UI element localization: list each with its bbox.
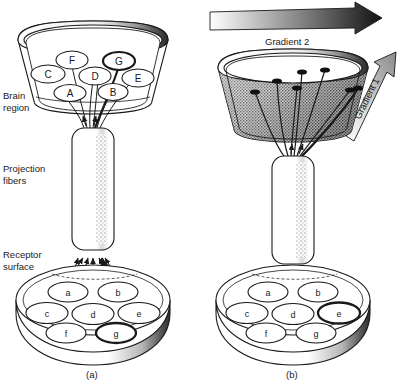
receptor-node-b-a-label: a bbox=[265, 288, 270, 298]
brain-region-label-line1: Brain bbox=[3, 90, 25, 101]
receptor-node-a-label: a bbox=[65, 288, 70, 298]
brain-node-B-label: B bbox=[110, 87, 117, 98]
receptor-surface-label-line2: surface bbox=[3, 261, 34, 272]
receptor-node-c-label: c bbox=[45, 309, 50, 319]
side-label-brain-region: Brain region bbox=[3, 90, 29, 113]
brain-node-F-label: F bbox=[69, 55, 75, 66]
side-label-projection-fibers: Projection fibers bbox=[3, 163, 45, 186]
receptor-node-b-a[interactable]: a bbox=[248, 282, 288, 302]
receptor-node-b-b-label: b bbox=[315, 288, 320, 298]
projection-fibers-label-line1: Projection bbox=[3, 163, 45, 174]
brain-node-A-label: A bbox=[67, 88, 74, 99]
receptor-node-b-g[interactable]: g bbox=[296, 323, 336, 343]
brain-node-G[interactable]: G bbox=[103, 52, 135, 70]
gradient-2-label: Gradient 2 bbox=[265, 36, 309, 47]
receptor-node-d-label: d bbox=[90, 310, 95, 320]
brain-node-D[interactable]: D bbox=[79, 67, 111, 85]
receptor-node-b-c[interactable]: c bbox=[226, 303, 268, 324]
brain-node-E-label: E bbox=[135, 73, 142, 84]
receptor-node-b[interactable]: b bbox=[98, 282, 138, 302]
receptor-node-b-e-label: e bbox=[336, 309, 341, 319]
panel-a: C F D E G A B bbox=[16, 21, 170, 380]
panel-a-caption: (a) bbox=[86, 369, 98, 380]
brain-node-B[interactable]: B bbox=[98, 84, 128, 101]
side-label-receptor-surface: Receptor surface bbox=[3, 249, 42, 272]
projection-fibers-label-line2: fibers bbox=[3, 175, 26, 186]
receptor-node-e-label: e bbox=[136, 309, 141, 319]
receptor-node-e[interactable]: e bbox=[118, 303, 160, 324]
brain-node-G-label: G bbox=[115, 56, 123, 67]
receptor-node-g-label: g bbox=[113, 329, 118, 339]
receptor-node-b-e[interactable]: e bbox=[318, 303, 360, 324]
brain-node-C[interactable]: C bbox=[31, 65, 65, 83]
receptor-node-b-d-label: d bbox=[290, 310, 295, 320]
brain-node-C-label: C bbox=[44, 69, 51, 80]
gradient-2-arrow: Gradient 2 bbox=[210, 2, 382, 47]
brain-node-E[interactable]: E bbox=[122, 69, 154, 87]
receptor-node-a[interactable]: a bbox=[48, 282, 88, 302]
receptor-surface-label-line1: Receptor bbox=[3, 249, 42, 260]
panel-b-projection-column bbox=[272, 156, 314, 264]
panel-a-projection-column bbox=[72, 128, 114, 250]
receptor-node-g[interactable]: g bbox=[96, 323, 136, 343]
receptor-node-f[interactable]: f bbox=[46, 323, 86, 343]
receptor-node-b-d[interactable]: d bbox=[272, 304, 314, 325]
receptor-node-b-b[interactable]: b bbox=[298, 282, 338, 302]
receptor-node-d[interactable]: d bbox=[72, 304, 114, 325]
panel-b-caption: (b) bbox=[286, 369, 298, 380]
panel-b: Gradient 2 Gradient 1 bbox=[210, 2, 396, 380]
brain-region-label-line2: region bbox=[3, 102, 29, 113]
brain-node-D-label: D bbox=[91, 71, 98, 82]
receptor-node-b-label: b bbox=[115, 288, 120, 298]
brain-node-F[interactable]: F bbox=[56, 51, 88, 69]
receptor-node-b-f[interactable]: f bbox=[246, 323, 286, 343]
figure-projection-diagram: Brain region Projection fibers Receptor … bbox=[0, 0, 405, 392]
receptor-node-b-c-label: c bbox=[245, 309, 250, 319]
receptor-node-c[interactable]: c bbox=[26, 303, 68, 324]
receptor-node-b-g-label: g bbox=[313, 329, 318, 339]
brain-node-A[interactable]: A bbox=[54, 85, 86, 102]
